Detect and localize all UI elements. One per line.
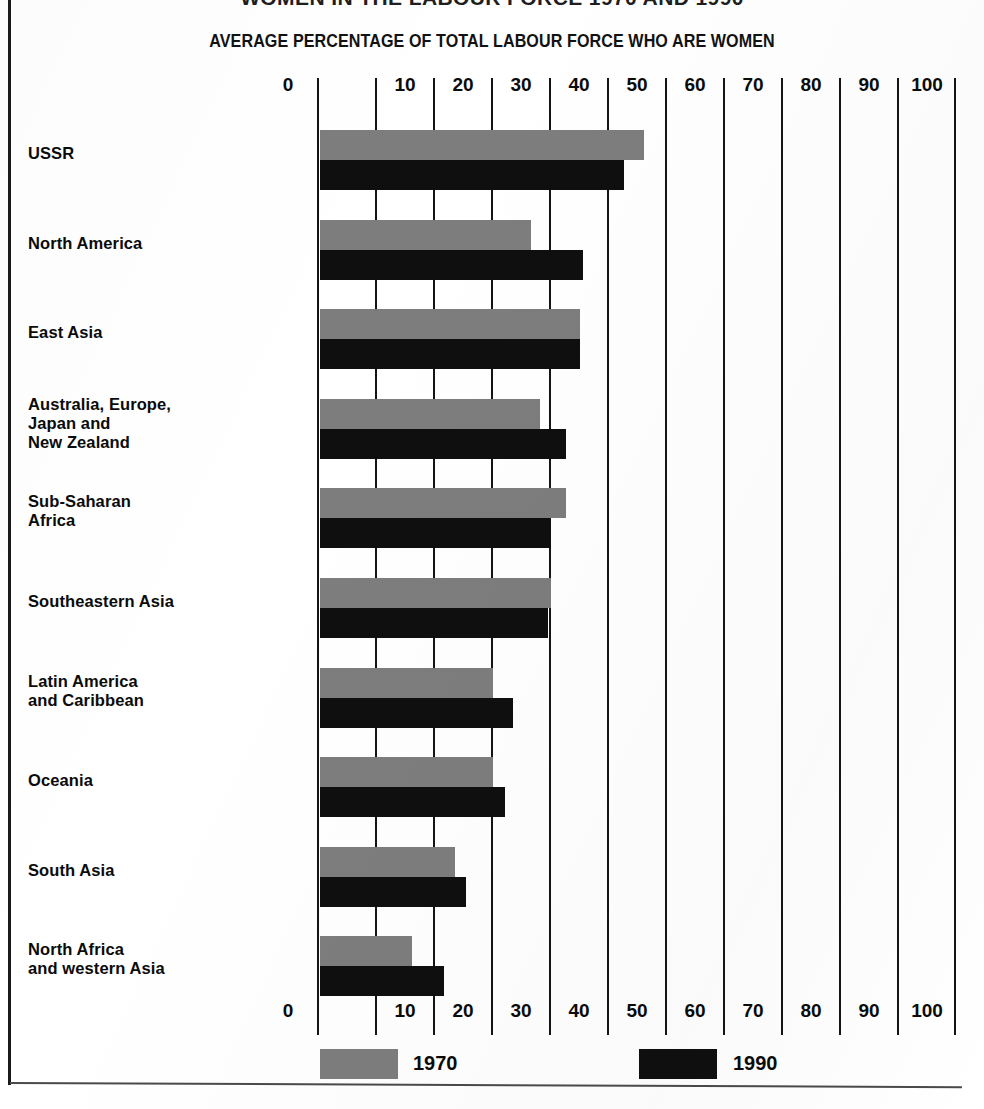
gridline-0 [317, 78, 319, 1035]
x-tick-90: 90 [839, 74, 899, 96]
category-label-line: Southeastern Asia [28, 592, 308, 611]
category-label-8: South Asia [28, 861, 308, 880]
category-label-line: Oceania [28, 771, 308, 790]
category-label-line: Sub-Saharan [28, 492, 308, 511]
category-label-4: Sub-SaharanAfrica [28, 492, 308, 530]
bar-1990-3 [320, 429, 566, 459]
bar-1990-9 [320, 966, 444, 996]
gridline-80 [781, 78, 783, 1035]
gridline-60 [665, 78, 667, 1035]
x-tick-30: 30 [491, 1000, 551, 1022]
bar-1970-9 [320, 936, 412, 966]
gridline-40 [549, 78, 551, 1035]
gridline-70 [723, 78, 725, 1035]
category-label-line: New Zealand [28, 433, 308, 452]
category-label-line: South Asia [28, 861, 308, 880]
x-tick-10: 10 [375, 74, 435, 96]
x-tick-0: 0 [258, 1000, 318, 1022]
bar-1990-0 [320, 160, 624, 190]
x-tick-70: 70 [723, 74, 783, 96]
bar-1990-8 [320, 877, 466, 907]
bar-1970-3 [320, 399, 540, 429]
bar-1970-8 [320, 847, 455, 877]
bar-1990-1 [320, 250, 583, 280]
category-label-line: North America [28, 234, 308, 253]
legend-swatch-1990 [639, 1049, 717, 1079]
bar-1990-2 [320, 339, 580, 369]
x-tick-100: 100 [897, 74, 957, 96]
legend-swatch-1970 [320, 1049, 398, 1079]
category-label-1: North America [28, 234, 308, 253]
x-tick-50: 50 [607, 74, 667, 96]
category-label-0: USSR [28, 144, 308, 163]
bar-1970-5 [320, 578, 551, 608]
x-tick-100: 100 [897, 1000, 957, 1022]
bar-1990-5 [320, 608, 548, 638]
category-label-line: North Africa [28, 940, 308, 959]
gridline-100 [897, 78, 899, 1035]
category-label-line: and western Asia [28, 959, 308, 978]
x-tick-70: 70 [723, 1000, 783, 1022]
category-label-line: East Asia [28, 323, 308, 342]
x-tick-80: 80 [781, 1000, 841, 1022]
category-label-line: and Caribbean [28, 691, 308, 710]
gridline-end [954, 78, 956, 1035]
gridline-50 [607, 78, 609, 1035]
category-label-3: Australia, Europe,Japan andNew Zealand [28, 395, 308, 452]
x-tick-60: 60 [665, 1000, 725, 1022]
bar-chart-plot: 0102030405060708090100 01020304050607080… [0, 0, 984, 1109]
x-tick-20: 20 [433, 1000, 493, 1022]
x-tick-80: 80 [781, 74, 841, 96]
bar-1990-7 [320, 787, 505, 817]
x-tick-10: 10 [375, 1000, 435, 1022]
category-label-line: Australia, Europe, [28, 395, 308, 414]
category-label-5: Southeastern Asia [28, 592, 308, 611]
bar-1970-4 [320, 488, 566, 518]
bar-1970-7 [320, 757, 493, 787]
category-label-7: Oceania [28, 771, 308, 790]
category-label-2: East Asia [28, 323, 308, 342]
x-tick-40: 40 [549, 1000, 609, 1022]
bar-1970-1 [320, 220, 531, 250]
legend-label-1970: 1970 [413, 1052, 458, 1075]
bar-1970-6 [320, 668, 493, 698]
category-label-line: Latin America [28, 672, 308, 691]
bar-1970-0 [320, 130, 644, 160]
x-tick-30: 30 [491, 74, 551, 96]
x-tick-90: 90 [839, 1000, 899, 1022]
x-tick-40: 40 [549, 74, 609, 96]
category-label-9: North Africaand western Asia [28, 940, 308, 978]
category-label-line: Africa [28, 511, 308, 530]
legend-label-1990: 1990 [733, 1052, 778, 1075]
bar-1990-4 [320, 518, 551, 548]
gridline-90 [839, 78, 841, 1035]
category-label-6: Latin Americaand Caribbean [28, 672, 308, 710]
bar-1970-2 [320, 309, 580, 339]
x-tick-20: 20 [433, 74, 493, 96]
x-tick-50: 50 [607, 1000, 667, 1022]
category-label-line: Japan and [28, 414, 308, 433]
category-label-line: USSR [28, 144, 308, 163]
x-tick-0: 0 [258, 74, 318, 96]
x-tick-60: 60 [665, 74, 725, 96]
bar-1990-6 [320, 698, 513, 728]
